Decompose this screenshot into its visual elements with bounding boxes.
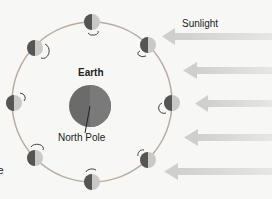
moon-icon	[27, 144, 43, 166]
moon-icon	[84, 169, 100, 190]
moon-icon	[6, 93, 25, 111]
earth-label: Earth	[78, 67, 104, 78]
cut-off-label: e	[0, 165, 4, 176]
north-pole-label: North Pole	[58, 132, 105, 143]
moon-icon	[84, 14, 100, 35]
sunlight-arrow-icon	[162, 28, 272, 45]
moon-icon	[138, 37, 156, 57]
earth-icon	[69, 85, 111, 133]
sunlight-arrow-icon	[183, 62, 272, 79]
moon-icon	[159, 95, 180, 113]
moon-icon	[27, 40, 49, 58]
sunlight-label: Sunlight	[182, 18, 218, 29]
sunlight-arrow-icon	[164, 163, 272, 180]
moon-orbit-diagram	[0, 0, 272, 199]
sunlight-arrow-icon	[184, 129, 272, 146]
sunlight-arrow-icon	[195, 95, 272, 112]
